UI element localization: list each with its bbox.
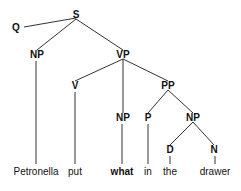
leaf-word-in: in (144, 166, 152, 177)
edge-np3-n (193, 122, 214, 145)
node-n: N (210, 144, 217, 155)
edge-vp-pp (123, 59, 168, 81)
node-np1: NP (30, 49, 44, 60)
edge-np3-d (170, 122, 193, 145)
leaf-word-drawer: drawer (200, 166, 231, 177)
node-vp: VP (116, 49, 130, 60)
edge-pp-np3 (168, 90, 193, 113)
node-pp: PP (161, 80, 175, 91)
edge-vp-v (75, 59, 123, 81)
node-s: S (73, 9, 80, 20)
syntax-tree-diagram: SQNPVPVNPPPPNPDN Petronellaputwhatinthed… (0, 0, 241, 191)
node-q: Q (12, 22, 20, 33)
tree-leaves: Petronellaputwhatinthedrawer (13, 166, 230, 177)
node-np2: NP (116, 112, 130, 123)
node-np3: NP (186, 112, 200, 123)
edge-s-vp (76, 19, 123, 50)
leaf-word-what: what (110, 166, 134, 177)
node-d: D (166, 144, 173, 155)
leaf-word-the: the (163, 166, 177, 177)
leaf-word-petronella: Petronella (13, 166, 58, 177)
tree-nodes: SQNPVPVNPPPPNPDN (12, 9, 218, 155)
edge-pp-p (148, 90, 168, 113)
tree-edges (24, 18, 214, 145)
node-p: P (145, 112, 152, 123)
leaf-word-put: put (68, 166, 82, 177)
node-v: V (72, 80, 79, 91)
